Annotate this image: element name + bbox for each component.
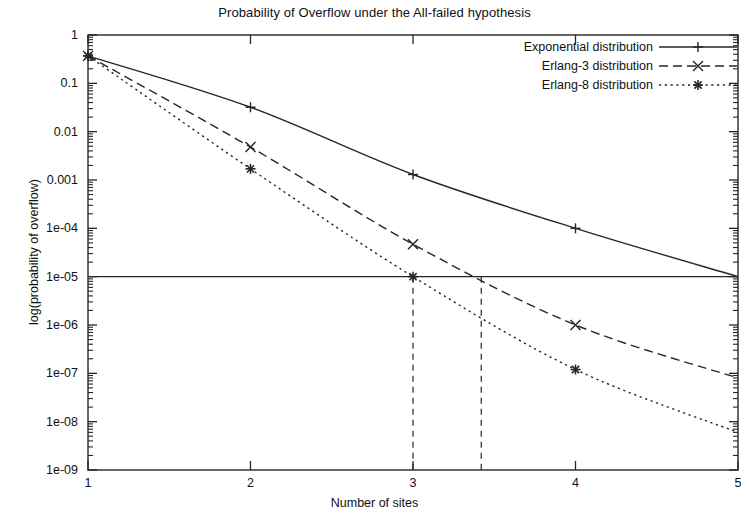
- chart-container: Probability of Overflow under the All-fa…: [0, 0, 749, 518]
- legend-item[interactable]: Exponential distribution: [505, 38, 737, 55]
- x-axis-tick-label: 4: [572, 476, 579, 490]
- legend-item[interactable]: Erlang-8 distribution: [505, 76, 737, 93]
- legend-line-sample: [659, 40, 737, 54]
- y-axis-tick-label: 1e-09: [0, 463, 78, 477]
- legend-item-label: Erlang-8 distribution: [542, 78, 653, 92]
- legend-item-label: Erlang-3 distribution: [542, 59, 653, 73]
- plot-frame: [88, 35, 738, 470]
- y-axis-tick-label: 1: [0, 28, 78, 42]
- chart-legend: Exponential distributionErlang-3 distrib…: [505, 38, 737, 93]
- x-axis-tick-label: 3: [410, 476, 417, 490]
- x-axis-tick-label: 2: [247, 476, 254, 490]
- y-axis-tick-label: 0.1: [0, 76, 78, 90]
- legend-line-sample: [659, 78, 737, 92]
- x-axis-label: Number of sites: [0, 496, 749, 510]
- x-axis-tick-label: 1: [85, 476, 92, 490]
- series-line: [88, 56, 738, 378]
- legend-line-sample: [659, 59, 737, 73]
- y-axis-label: log(probability of overflow): [27, 122, 41, 382]
- legend-item-label: Exponential distribution: [524, 40, 653, 54]
- y-axis-tick-label: 1e-08: [0, 415, 78, 429]
- series-2: [83, 51, 738, 378]
- legend-item[interactable]: Erlang-3 distribution: [505, 57, 737, 74]
- x-axis-tick-label: 5: [735, 476, 742, 490]
